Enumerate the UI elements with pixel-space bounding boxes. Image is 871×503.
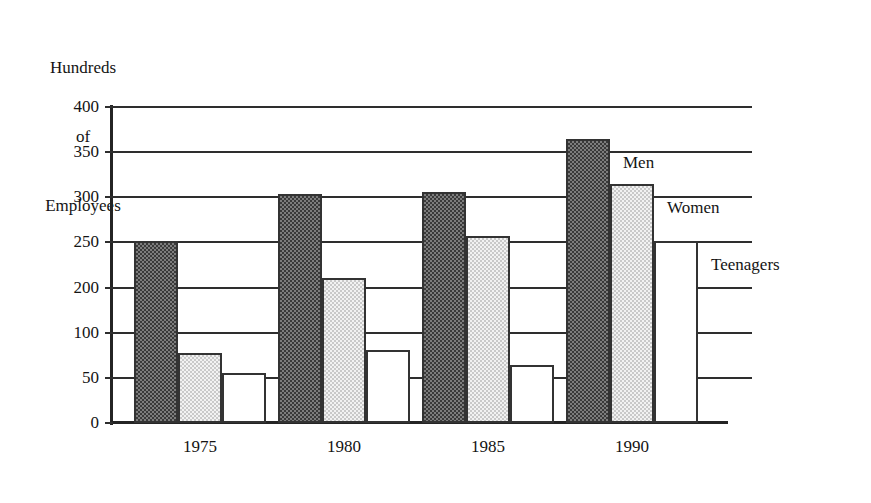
- bar-women-1990: [610, 184, 654, 423]
- x-axis-tick-label-1985: 1985: [471, 437, 505, 457]
- x-axis-tick-label-1990: 1990: [615, 437, 649, 457]
- y-axis-tick-label: 200: [74, 278, 100, 298]
- bar-men-1985: [422, 192, 466, 423]
- plot-area: 400350300250200100500 1975198019851990 M…: [112, 107, 752, 423]
- y-axis-tick: [105, 196, 113, 198]
- bar-teenagers-1975: [222, 373, 266, 423]
- series-label-men: Men: [620, 153, 657, 173]
- y-axis-tick-label: 350: [74, 142, 100, 162]
- bar-teenagers-1980: [366, 350, 410, 423]
- bar-teenagers-1990: [654, 241, 698, 423]
- bar-men-1975: [134, 241, 178, 423]
- bar-men-1990: [566, 139, 610, 423]
- y-axis-tick: [105, 106, 113, 108]
- y-axis-tick: [105, 422, 113, 424]
- bar-men-1980: [278, 194, 322, 423]
- y-axis-tick-label: 250: [74, 232, 100, 252]
- x-axis-tick-label-1975: 1975: [183, 437, 217, 457]
- bar-teenagers-1985: [510, 365, 554, 423]
- y-axis-tick: [105, 377, 113, 379]
- x-axis-tick-label-1980: 1980: [327, 437, 361, 457]
- chart-screenshot: Hundreds of Employees 400350300250200100…: [0, 0, 871, 503]
- bar-women-1985: [466, 236, 510, 423]
- y-axis-tick: [105, 151, 113, 153]
- y-axis-tick-label: 400: [74, 97, 100, 117]
- y-axis-tick: [105, 287, 113, 289]
- y-axis-tick: [105, 241, 113, 243]
- gridline: [112, 106, 752, 108]
- y-axis-tick-label: 300: [74, 187, 100, 207]
- bar-women-1975: [178, 353, 222, 423]
- series-label-women: Women: [664, 198, 722, 218]
- y-axis-caption-line-1: Hundreds: [8, 56, 158, 79]
- y-axis-tick: [105, 332, 113, 334]
- bar-women-1980: [322, 278, 366, 423]
- y-axis-tick-label: 50: [82, 368, 99, 388]
- y-axis-tick-label: 100: [74, 323, 100, 343]
- series-label-teenagers: Teenagers: [708, 255, 783, 275]
- y-axis-tick-label: 0: [91, 413, 100, 433]
